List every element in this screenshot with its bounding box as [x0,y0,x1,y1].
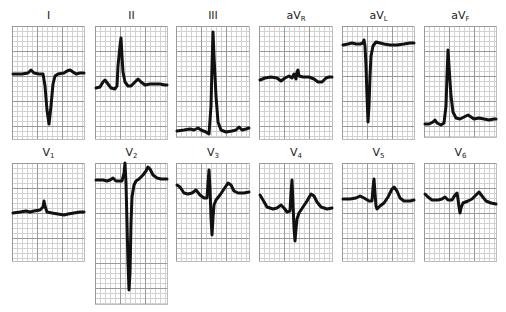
lead-V4-label: V4 [259,147,333,162]
lead-V3-trace [176,163,250,262]
lead-V1-label: V1 [12,147,85,162]
lead-aVR-panel: aVR [259,26,333,140]
lead-III-panel: III [176,26,250,138]
lead-aVL-panel: aVL [342,26,415,140]
lead-V5-panel: V5 [342,163,415,262]
lead-V1-panel: V1 [12,163,85,262]
lead-V2-trace [95,163,168,305]
lead-V2-label: V2 [95,147,168,162]
lead-aVR-trace [259,26,333,140]
lead-aVF-panel: aVF [424,26,497,138]
lead-V3-label: V3 [176,147,250,162]
lead-V4-trace [259,163,333,262]
lead-V5-trace [342,163,415,262]
lead-aVL-trace [342,26,415,140]
lead-I-trace [12,26,85,140]
lead-II-trace [95,26,168,140]
lead-V2-panel: V2 [95,163,168,305]
lead-V6-panel: V6 [424,163,497,262]
lead-aVF-label: aVF [424,10,497,25]
lead-I-label: I [12,10,85,25]
lead-III-trace [176,26,250,138]
lead-V3-panel: V3 [176,163,250,262]
lead-V4-panel: V4 [259,163,333,262]
lead-V6-label: V6 [424,147,497,162]
lead-V6-trace [424,163,497,262]
lead-II-label: II [95,10,168,25]
lead-aVR-label: aVR [259,10,333,25]
lead-V5-label: V5 [342,147,415,162]
lead-I-panel: I [12,26,85,140]
lead-II-panel: II [95,26,168,140]
lead-aVL-label: aVL [342,10,415,25]
lead-V1-trace [12,163,85,262]
lead-aVF-trace [424,26,497,138]
lead-III-label: III [176,10,250,25]
